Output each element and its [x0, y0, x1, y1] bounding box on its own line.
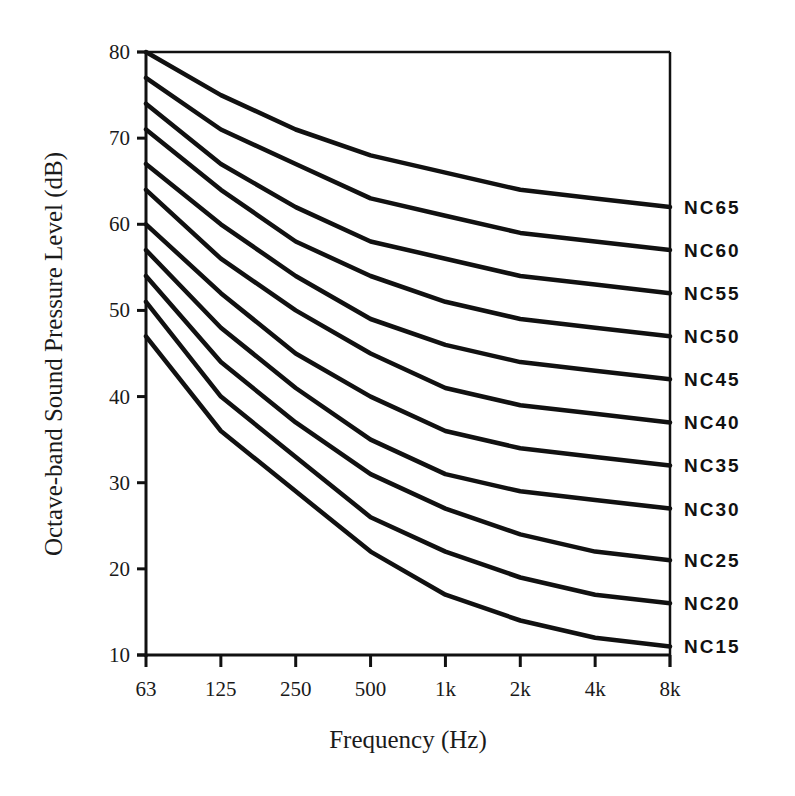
y-tick-label: 50	[109, 298, 130, 322]
y-tick-label: 30	[109, 471, 130, 495]
y-tick-label: 20	[109, 557, 130, 581]
label-nc60: NC60	[684, 240, 741, 261]
y-tick-label: 60	[109, 212, 130, 236]
x-tick-label: 1k	[435, 677, 457, 701]
label-nc55: NC55	[684, 283, 741, 304]
curve-nc50	[146, 130, 670, 337]
label-nc30: NC30	[684, 499, 741, 520]
x-tick-label: 250	[280, 677, 312, 701]
x-tick-label: 500	[355, 677, 387, 701]
y-tick-label: 10	[109, 643, 130, 667]
nc-curves	[146, 52, 670, 646]
x-axis-ticks: 631252505001k2k4k8k	[136, 655, 682, 701]
x-tick-label: 63	[136, 677, 157, 701]
label-nc45: NC45	[684, 369, 741, 390]
y-axis-title: Octave-band Sound Pressure Level (dB)	[40, 152, 68, 556]
curve-nc20	[146, 302, 670, 604]
label-nc40: NC40	[684, 412, 741, 433]
curve-nc25	[146, 276, 670, 560]
label-nc65: NC65	[684, 197, 741, 218]
y-tick-label: 40	[109, 385, 130, 409]
x-axis-title: Frequency (Hz)	[329, 726, 487, 754]
label-nc15: NC15	[684, 636, 741, 657]
x-tick-label: 8k	[660, 677, 682, 701]
label-nc25: NC25	[684, 550, 741, 571]
x-tick-label: 4k	[585, 677, 607, 701]
label-nc35: NC35	[684, 455, 741, 476]
y-tick-label: 80	[109, 40, 130, 64]
x-tick-label: 125	[205, 677, 237, 701]
y-axis-ticks: 1020304050607080	[109, 40, 146, 667]
label-nc20: NC20	[684, 593, 741, 614]
label-nc50: NC50	[684, 326, 741, 347]
nc-curves-chart: 1020304050607080 631252505001k2k4k8k NC6…	[0, 0, 795, 796]
y-tick-label: 70	[109, 126, 130, 150]
x-tick-label: 2k	[510, 677, 532, 701]
nc-curve-labels: NC65NC60NC55NC50NC45NC40NC35NC30NC25NC20…	[684, 197, 741, 657]
